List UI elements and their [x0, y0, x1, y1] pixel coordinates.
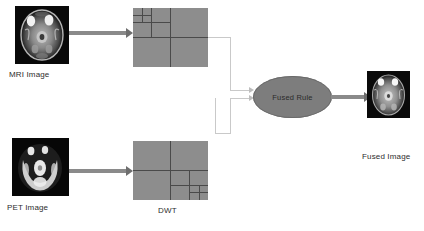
edge-dwt-mri-to-fused-segment: [230, 37, 231, 90]
edge-mri-to-dwt-arrowhead: [126, 28, 133, 38]
edge-pet-to-dwt-arrowhead: [126, 166, 133, 176]
mri-brain-scan-icon: [15, 6, 69, 64]
edge-dwt-mri-to-fused-segment: [208, 37, 230, 38]
edge-mri-to-dwt-line: [69, 31, 127, 35]
fused-brain-scan-icon: [367, 71, 410, 118]
edge-pet-to-dwt-line: [69, 169, 127, 173]
dwt-grid-line: [133, 22, 170, 23]
edge-dwt-mri-to-fused-segment: [230, 90, 250, 91]
dwt-grid-line: [170, 185, 208, 186]
fused-rule-label: Fused Rule: [272, 93, 312, 102]
fused-image-label: Fused Image: [362, 152, 410, 161]
dwt-grid-line: [133, 15, 151, 16]
dwt-grid-line: [133, 170, 208, 171]
diagram-canvas: MRI Image PET Image: [0, 0, 424, 231]
dwt-grid-line: [133, 37, 208, 38]
dwt-block-mri: [133, 8, 208, 67]
fused-rule-node[interactable]: Fused Rule: [253, 76, 332, 118]
edge-dwt-pet-to-fused-segment: [230, 98, 231, 134]
pet-brain-scan-icon: [12, 138, 69, 196]
edge-dwt-pet-to-fused-segment: [215, 98, 216, 134]
pet-image-thumbnail: [12, 138, 69, 196]
dwt-label: DWT: [158, 206, 177, 215]
mri-image-label: MRI Image: [9, 70, 49, 79]
dwt-grid-line: [189, 192, 208, 193]
mri-image-thumbnail: [15, 6, 69, 64]
edge-dwt-pet-to-fused-segment: [215, 133, 231, 134]
edge-dwt-pet-to-fused-segment: [230, 98, 250, 99]
fused-image-thumbnail: [367, 71, 410, 118]
dwt-block-pet: [133, 141, 208, 200]
edge-fused-to-image-line: [331, 95, 366, 99]
pet-image-label: PET Image: [7, 203, 48, 212]
